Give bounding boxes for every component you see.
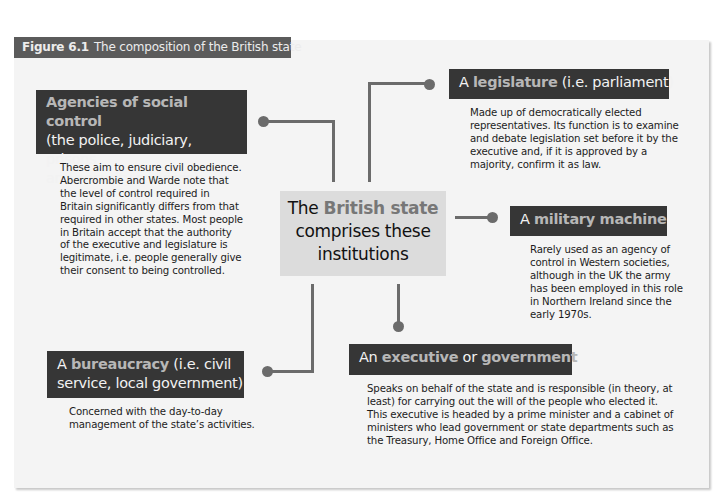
bureaucracy-heading-line2: service, local government) xyxy=(57,374,234,393)
connector-line-agencies-v xyxy=(332,120,335,182)
center-highlight: British state xyxy=(324,198,439,218)
text-line: in Northern Ireland since the xyxy=(530,296,700,309)
center-text-line3: institutions xyxy=(280,243,446,266)
figure-title: The composition of the British state xyxy=(94,40,301,54)
text-line: Made up of democratically elected xyxy=(470,107,690,120)
bureaucracy-heading-post: (i.e. civil xyxy=(169,356,231,372)
executive-heading-pre: An xyxy=(359,349,382,365)
legislature-description: Made up of democratically elected repres… xyxy=(470,107,690,172)
executive-heading-box: An executive or government xyxy=(349,344,572,375)
text-line: majority, confirm it as law. xyxy=(470,159,690,172)
military-description: Rarely used as an agency of control in W… xyxy=(530,244,700,321)
military-heading-pre: A xyxy=(520,211,534,227)
connector-line-legislature-v xyxy=(368,82,371,182)
legislature-heading-pre: A xyxy=(459,74,473,90)
text-line: executive and, if it is approved by a xyxy=(470,146,690,159)
text-line: control in Western societies, xyxy=(530,257,700,270)
connector-dot-military xyxy=(487,212,498,223)
text-line: required in other states. Most people xyxy=(60,214,260,227)
text-line: Rarely used as an agency of xyxy=(530,244,700,257)
connector-dot-bureaucracy xyxy=(262,366,273,377)
connector-line-agencies-h xyxy=(263,120,335,123)
text-line: of the executive and legislature is xyxy=(60,239,260,252)
executive-heading-highlight-2: government xyxy=(481,349,577,365)
executive-heading-highlight-1: executive xyxy=(382,349,458,365)
bureaucracy-heading-highlight: bureaucracy xyxy=(71,356,169,372)
center-text-line2: comprises these xyxy=(280,220,446,243)
text-line: the Treasury, Home Office and Foreign Of… xyxy=(367,435,697,448)
text-line: in Britain accept that the authority xyxy=(60,227,260,240)
text-line: and debate legislation set before it by … xyxy=(470,133,690,146)
connector-line-bureaucracy-h xyxy=(268,370,314,373)
text-line: ministers who lead government or state d… xyxy=(367,422,697,435)
text-line: This executive is headed by a prime mini… xyxy=(367,409,697,422)
agencies-heading-highlight: Agencies of social control xyxy=(46,93,237,131)
legislature-heading-box: A legislature (i.e. parliament) xyxy=(449,69,669,99)
bureaucracy-description: Concerned with the day-to-day management… xyxy=(69,406,269,432)
agencies-description: These aim to ensure civil obedience. Abe… xyxy=(60,162,260,278)
central-concept-box: The British state comprises these instit… xyxy=(280,191,446,276)
text-line: legitimate, i.e. people generally give xyxy=(60,252,260,265)
connector-line-executive-v xyxy=(397,284,400,324)
figure-number: Figure 6.1 xyxy=(22,40,89,54)
military-heading-highlight: military machine xyxy=(534,211,667,227)
connector-line-legislature-h xyxy=(368,82,428,85)
executive-heading-mid: or xyxy=(458,349,481,365)
text-line: although in the UK the army xyxy=(530,270,700,283)
connector-line-bureaucracy-v xyxy=(311,284,314,373)
legislature-heading-highlight: legislature xyxy=(473,74,557,90)
text-line: These aim to ensure civil obedience. xyxy=(60,162,260,175)
connector-dot-executive xyxy=(393,321,404,332)
text-line: the level of control required in xyxy=(60,188,260,201)
text-line: management of the state’s activities. xyxy=(69,419,269,432)
figure-caption: Figure 6.1The composition of the British… xyxy=(14,37,291,58)
text-line: least) for carrying out the will of the … xyxy=(367,396,697,409)
agencies-heading-box: Agencies of social control (the police, … xyxy=(36,90,247,154)
text-line: Speaks on behalf of the state and is res… xyxy=(367,383,697,396)
bureaucracy-heading-pre: A xyxy=(57,356,71,372)
connector-line-military xyxy=(455,216,491,219)
bureaucracy-heading-box: A bureaucracy (i.e. civil service, local… xyxy=(47,351,244,398)
legislature-heading-post: (i.e. parliament) xyxy=(557,74,673,90)
text-line: early 1970s. xyxy=(530,309,700,322)
text-line: Concerned with the day-to-day xyxy=(69,406,269,419)
text-line: representatives. Its function is to exam… xyxy=(470,120,690,133)
text-line: Abercrombie and Warde note that xyxy=(60,175,260,188)
text-line: their consent to being controlled. xyxy=(60,265,260,278)
executive-description: Speaks on behalf of the state and is res… xyxy=(367,383,697,448)
center-text-pre: The xyxy=(288,198,324,218)
text-line: Britain significantly differs from that xyxy=(60,201,260,214)
text-line: has been employed in this role xyxy=(530,283,700,296)
military-heading-box: A military machine xyxy=(510,206,667,236)
